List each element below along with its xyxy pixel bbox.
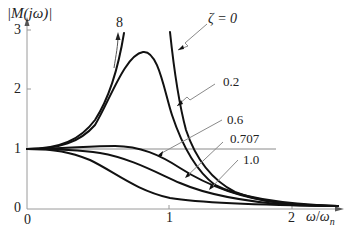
curve-zeta-0-right [170,32,338,206]
zeta-0.6-label: 0.6 [227,113,243,126]
curve-zeta-0.707 [27,149,338,206]
frequency-response-plot [0,0,348,227]
y-tick-0: 0 [14,201,21,215]
zeta-0.2-label: 0.2 [223,75,239,88]
x-axis-label: ω/ωn [306,210,335,227]
y-axis-label-text: |M(jω)| [7,5,53,21]
y-tick-3: 3 [14,23,21,37]
x-label-subscript: n [330,216,335,227]
x-axis-arrow-icon [335,207,344,212]
x-tick-0: 0 [24,213,31,227]
curves [27,32,338,206]
y-tick-1: 1 [14,142,21,156]
curve-zeta-0-left [27,33,124,149]
y-axis-label: |M(jω)| [7,6,53,21]
axes [25,17,345,212]
infinity-arrow-icon [116,32,121,40]
zeta-0-label: ζ = 0 [208,12,237,26]
arrow-icon [178,45,184,50]
y-tick-2: 2 [14,82,21,96]
x-label-omega-n: ω [320,209,330,224]
infinity-label: 8 [116,16,123,30]
x-tick-2: 2 [288,211,295,225]
curve-zeta-1.0 [27,149,338,206]
zeta-0.707-label: 0.707 [230,132,259,145]
x-label-omega: ω [306,209,316,224]
x-tick-1: 1 [166,211,173,225]
zeta-1.0-label: 1.0 [243,153,259,166]
curve-zeta-0.2 [27,52,338,206]
